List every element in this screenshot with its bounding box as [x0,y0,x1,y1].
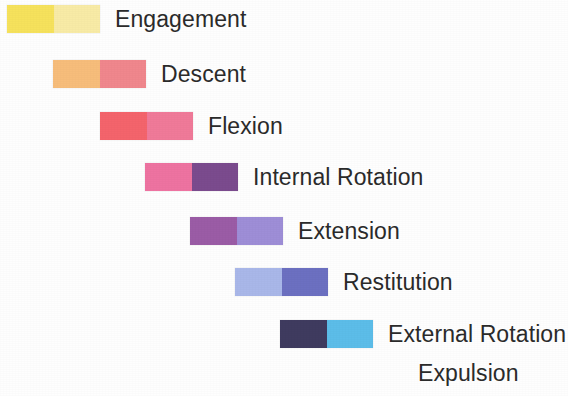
cascade-row: Expulsion [418,362,519,385]
row-label: Descent [146,62,246,85]
swatch-half-left [190,217,237,245]
swatch-half-left [235,268,282,296]
swatch-half-left [100,112,147,140]
color-swatch [53,60,146,88]
swatch-half-right [327,320,374,348]
swatch-half-right [282,268,329,296]
swatch-half-left [145,163,192,191]
cascade-row: Restitution [235,268,453,296]
figure-canvas: EngagementDescentFlexionInternal Rotatio… [0,0,568,396]
color-swatch [100,112,193,140]
cascade-row: Extension [190,217,400,245]
color-swatch [280,320,373,348]
color-swatch [235,268,328,296]
color-swatch [7,5,100,33]
row-label: Expulsion [418,362,519,385]
swatch-half-right [100,60,147,88]
color-swatch [145,163,238,191]
cascade-row: Engagement [7,5,246,33]
row-label: Restitution [328,270,453,293]
cascade-row: External Rotation [280,320,566,348]
swatch-half-left [53,60,100,88]
row-label: Extension [283,219,400,242]
swatch-half-right [237,217,284,245]
swatch-half-right [54,5,101,33]
color-swatch [190,217,283,245]
cascade-row: Flexion [100,112,283,140]
row-label: External Rotation [373,322,566,345]
swatch-half-right [192,163,239,191]
swatch-half-left [7,5,54,33]
row-label: Flexion [193,114,283,137]
swatch-half-right [147,112,194,140]
cascade-row: Descent [53,60,246,88]
cascade-row: Internal Rotation [145,163,423,191]
row-label: Engagement [100,7,246,30]
swatch-half-left [280,320,327,348]
row-label: Internal Rotation [238,165,423,188]
